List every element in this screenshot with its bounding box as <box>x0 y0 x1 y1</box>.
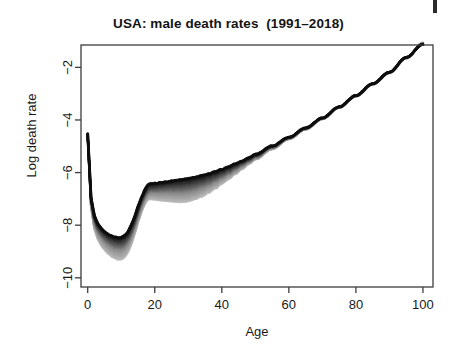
series-line-2002 <box>88 44 423 248</box>
series-line-2006 <box>88 44 423 252</box>
y-tick-label: −4 <box>61 113 76 128</box>
y-tick-label: −2 <box>61 60 76 75</box>
y-axis-title: Log death rate <box>24 56 39 216</box>
x-tick-label: 40 <box>215 297 229 312</box>
series-line-2017 <box>88 43 423 260</box>
x-tick-label: 0 <box>84 297 91 312</box>
y-tick-label: −6 <box>61 165 76 180</box>
x-tick-label: 80 <box>349 297 363 312</box>
x-tick-label: 100 <box>412 297 434 312</box>
tick-label-layer: 020406080100−2−4−6−8−10 <box>61 60 434 312</box>
series-line-2018 <box>88 43 423 260</box>
y-tick-label: −10 <box>61 267 76 289</box>
series-line-2008 <box>88 43 423 252</box>
figure-canvas: USA: male death rates (1991–2018) 020406… <box>0 0 457 354</box>
x-tick-label: 60 <box>282 297 296 312</box>
series-line-1991-top <box>88 44 423 238</box>
x-axis-title: Age <box>81 324 433 339</box>
x-tick-label: 20 <box>148 297 162 312</box>
series-line-2005 <box>88 44 423 251</box>
chart-plot-area: 020406080100−2−4−6−8−10 <box>0 0 457 354</box>
series-layer <box>88 43 423 260</box>
y-tick-label: −8 <box>61 218 76 233</box>
